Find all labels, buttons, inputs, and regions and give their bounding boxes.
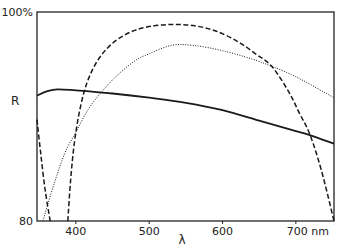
y-axis-title: R: [11, 94, 19, 108]
reflectance-chart: 400500600700 nm80100% R λ: [0, 0, 344, 249]
series-solid: [37, 89, 334, 143]
series-dashed: [68, 24, 334, 221]
y-tick-label: 100%: [2, 6, 33, 19]
series-layer: [37, 24, 334, 221]
series-dashed-left-branch: [37, 120, 50, 221]
x-tick-label: 600: [212, 225, 233, 238]
series-dotted: [43, 45, 334, 221]
x-tick-label: 400: [65, 225, 86, 238]
x-axis-title: λ: [178, 233, 185, 247]
plot-frame: [37, 12, 334, 221]
ticks-layer: 400500600700 nm80100%: [2, 6, 330, 238]
x-tick-label: 700 nm: [287, 225, 329, 238]
plot-border: [37, 12, 334, 221]
y-tick-label: 80: [19, 215, 33, 228]
x-tick-label: 500: [139, 225, 160, 238]
